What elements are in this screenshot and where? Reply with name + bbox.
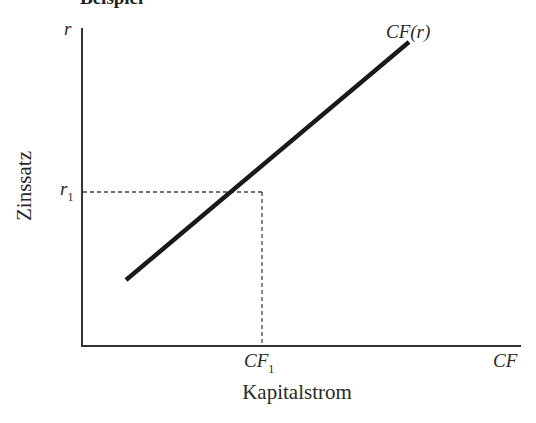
r1-subscript: 1 [67, 190, 73, 204]
cf-r-curve [126, 42, 409, 280]
cf1-label: CF1 [244, 350, 274, 372]
x-axis-symbol: CF [493, 350, 517, 372]
cf1-main: CF [244, 350, 268, 371]
y-axis-symbol: r [64, 18, 71, 40]
x-axis-title: Kapitalstrom [242, 380, 352, 405]
y-axis-title: Zinssatz [12, 151, 37, 221]
r1-label: r1 [60, 178, 73, 200]
cf1-subscript: 1 [268, 362, 274, 376]
curve-label: CF(r) [386, 21, 430, 43]
